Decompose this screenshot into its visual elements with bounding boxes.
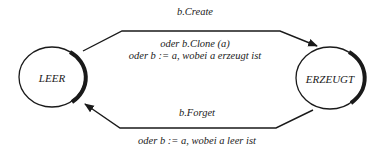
state-diagram: LEER ERZEUGT b.Create oder b.Clone (a) o… <box>0 0 386 153</box>
state-leer-label: LEER <box>39 72 65 84</box>
transition-forget-alt-1: oder b := a, wobei a leer ist <box>138 135 256 147</box>
transition-create-alt-1: oder b.Clone (a) <box>160 38 230 50</box>
transition-create-label: b.Create <box>177 6 213 18</box>
transition-create-alt-2: oder b := a, wobei a erzeugt ist <box>129 50 262 62</box>
state-erzeugt-label: ERZEUGT <box>306 73 354 85</box>
transition-forget-label: b.Forget <box>179 107 215 119</box>
